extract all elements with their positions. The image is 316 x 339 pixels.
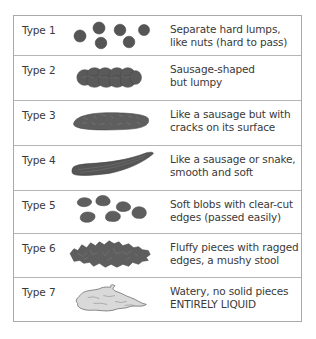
description-line: Like a sausage or snake, — [170, 153, 296, 166]
description-line: cracks on its surface — [170, 121, 291, 134]
chart-row-type-1: Type 1 Separate hard lumps, like nuts (h… — [14, 16, 301, 55]
description-line: edges, a mushy stool — [170, 254, 299, 267]
description-line: smooth and soft — [170, 166, 296, 179]
type-label: Type 3 — [22, 109, 56, 121]
type-description: Fluffy pieces with ragged edges, a mushy… — [170, 241, 299, 266]
chart-row-type-5: Type 5 Soft blobs with clear-cut edges (… — [14, 190, 301, 233]
description-line: but lumpy — [170, 76, 255, 89]
type-label: Type 4 — [22, 154, 56, 166]
type-label: Type 1 — [22, 24, 56, 36]
type-description: Soft blobs with clear-cut edges (passed … — [170, 198, 293, 223]
chart-row-type-6: Type 6 Fluffy pieces with ragged edges, … — [14, 233, 301, 277]
separate-hard-lumps-icon — [59, 16, 174, 55]
description-line: Separate hard lumps, — [170, 23, 287, 36]
watery-liquid-icon — [59, 278, 174, 323]
type-label: Type 2 — [22, 64, 56, 76]
lumpy-sausage-icon — [59, 56, 174, 100]
soft-blobs-icon — [59, 191, 174, 233]
chart-row-type-7: Type 7 Watery, no solid pieces ENTIRELY … — [14, 277, 301, 323]
chart-row-type-2: Type 2 S — [14, 55, 301, 100]
description-line: Sausage-shaped — [170, 63, 255, 76]
type-description: Like a sausage or snake, smooth and soft — [170, 153, 296, 178]
chart-row-type-4: Type 4 Like a sausage or snake, smooth a… — [14, 145, 301, 190]
type-label: Type 5 — [22, 199, 56, 211]
type-description: Watery, no solid pieces ENTIRELY LIQUID — [170, 285, 288, 310]
description-line: Watery, no solid pieces — [170, 285, 288, 298]
description-line: edges (passed easily) — [170, 211, 293, 224]
type-description: Like a sausage but with cracks on its su… — [170, 108, 291, 133]
chart-row-type-3: Type 3 Like a sausage but with cracks on… — [14, 100, 301, 145]
description-line: like nuts (hard to pass) — [170, 36, 287, 49]
type-label: Type 7 — [22, 286, 56, 298]
cracked-sausage-icon — [59, 101, 174, 145]
description-line: Soft blobs with clear-cut — [170, 198, 293, 211]
type-description: Sausage-shaped but lumpy — [170, 63, 255, 88]
description-line: Fluffy pieces with ragged — [170, 241, 299, 254]
smooth-snake-icon — [59, 146, 174, 190]
type-label: Type 6 — [22, 242, 56, 254]
type-description: Separate hard lumps, like nuts (hard to … — [170, 23, 287, 48]
description-line: Like a sausage but with — [170, 108, 291, 121]
bristol-stool-chart: Type 1 Separate hard lumps, like nuts (h… — [13, 15, 302, 322]
description-line: ENTIRELY LIQUID — [170, 298, 288, 311]
fluffy-pieces-icon — [59, 234, 174, 277]
